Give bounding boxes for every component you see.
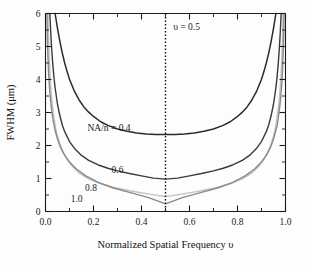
x-axis-title: Normalized Spatial Frequency υ	[97, 239, 233, 250]
x-tick-label: 0.8	[232, 217, 244, 227]
y-tick-label: 2	[36, 141, 41, 151]
x-tick-label: 0.6	[184, 217, 196, 227]
y-tick-label: 1	[36, 174, 41, 184]
v-half-annotation: υ = 0.5	[173, 22, 200, 32]
figure-container: 0.00.20.40.60.81.0 0123456 NA/n = 0.40.6…	[0, 0, 311, 266]
x-tick-label: 0.4	[136, 217, 148, 227]
y-tick-label: 0	[36, 207, 41, 217]
curve-label-06: 0.6	[112, 165, 124, 175]
y-tick-label: 3	[36, 108, 41, 118]
x-tick-label: 1.0	[280, 217, 292, 227]
y-tick-label: 6	[36, 9, 41, 19]
annotations-group: υ = 0.5	[173, 22, 200, 32]
y-tick-label: 5	[36, 42, 41, 52]
curve-label-08: 0.8	[85, 183, 97, 193]
y-tick-label: 4	[36, 75, 41, 85]
curve-label-04: NA/n = 0.4	[88, 123, 131, 133]
x-tick-label: 0.2	[88, 217, 100, 227]
x-tick-label: 0.0	[40, 217, 52, 227]
y-axis-title: FWHM (μm)	[5, 84, 17, 141]
curve-label-10: 1.0	[71, 194, 83, 204]
fwhm-vs-normalized-spatial-frequency-chart: 0.00.20.40.60.81.0 0123456 NA/n = 0.40.6…	[0, 0, 311, 266]
